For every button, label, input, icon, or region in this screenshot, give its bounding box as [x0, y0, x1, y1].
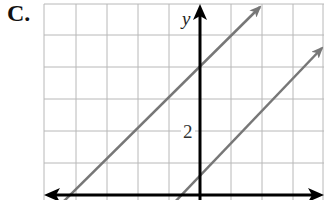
y-axis-label: y [180, 8, 191, 29]
upper-line [60, 7, 260, 200]
grid [44, 4, 324, 200]
y-tick-label-2: 2 [183, 121, 193, 142]
coordinate-graph: y 2 [0, 0, 324, 200]
